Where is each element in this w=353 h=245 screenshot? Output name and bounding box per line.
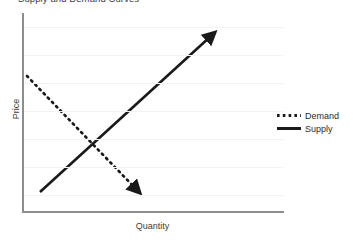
gridline [22,139,283,140]
gridline [22,111,283,112]
y-axis-line [22,13,24,213]
chart-title: Supply and Demand Curves [18,0,318,5]
gridline [22,27,283,28]
chart-legend: Demand Supply [276,109,353,135]
gridline [22,55,283,56]
supply-curve [40,36,211,192]
legend-item-supply: Supply [276,122,353,135]
y-axis-title: Price [11,79,21,139]
legend-swatch-dotted [276,110,302,121]
plot-area [22,13,283,212]
gridline [22,83,283,84]
legend-label-supply: Supply [305,124,333,134]
legend-label-demand: Demand [305,111,339,121]
supply-demand-chart: Supply and Demand Curves Price Quantity [0,0,353,245]
x-axis-title: Quantity [22,221,283,231]
legend-swatch-solid [276,123,302,134]
gridline [22,195,283,196]
x-axis-line [22,211,284,213]
gridline [22,167,283,168]
legend-item-demand: Demand [276,109,353,122]
curves-layer [22,13,283,212]
demand-curve [27,76,136,189]
